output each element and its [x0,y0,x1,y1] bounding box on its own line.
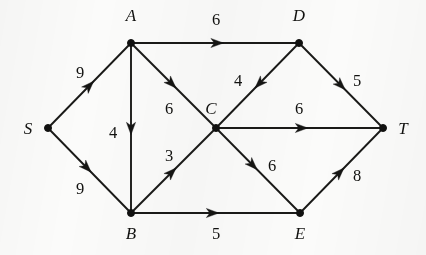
edge-weight-a-c: 6 [165,99,173,118]
edge-weight-a-b: 4 [109,123,117,142]
node-label-b: B [126,224,137,243]
node-c [213,125,220,132]
node-s [45,125,52,132]
graph-canvas: SABCDET 996463456658 [0,0,426,255]
edge-weight-a-d: 6 [212,10,220,29]
node-e [297,210,304,217]
node-t [380,125,387,132]
edge-weight-b-c: 3 [165,146,173,165]
edge-weight-d-t: 5 [353,71,361,90]
flow-network-figure: SABCDET 996463456658 [0,0,426,255]
node-b [128,210,135,217]
edge-weight-d-c: 4 [234,71,242,90]
node-d [296,40,303,47]
edge-c-e [216,128,300,213]
node-label-a: A [125,6,137,25]
edge-weight-c-t: 6 [295,99,303,118]
node-label-e: E [294,224,306,243]
node-label-c: C [205,99,217,118]
edge-weight-s-b: 9 [76,179,84,198]
node-a [128,40,135,47]
node-label-d: D [292,6,306,25]
edge-weight-e-t: 8 [353,166,361,185]
node-label-t: T [398,119,409,138]
edge-weight-s-a: 9 [76,63,84,82]
edge-weight-b-e: 5 [212,224,220,243]
edge-weight-c-e: 6 [268,156,276,175]
node-label-s: S [24,119,33,138]
